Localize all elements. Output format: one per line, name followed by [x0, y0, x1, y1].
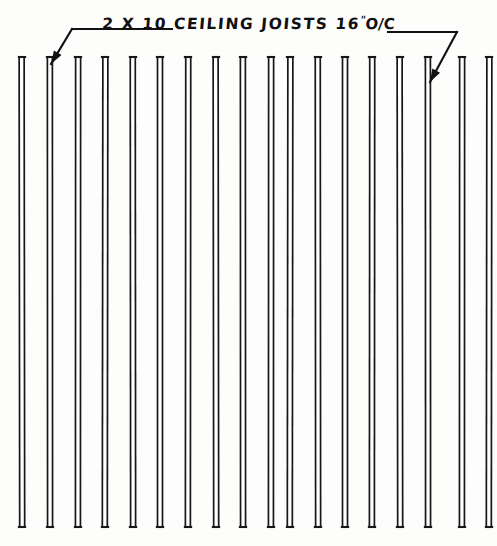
joist-edge-right: [107, 57, 108, 527]
ceiling-joist: [459, 57, 465, 527]
ceiling-joist: [315, 57, 321, 527]
joist-edge-left: [19, 57, 20, 527]
ceiling-joist: [185, 57, 191, 527]
framing-plan-drawing: 2 X 10 CEILING JOISTS 16"O/C: [0, 0, 497, 546]
joist-edge-right: [24, 57, 25, 527]
leader-arrowhead: [51, 51, 61, 64]
joist-edge-left: [213, 57, 214, 527]
joist-edge-left: [102, 57, 103, 527]
ceiling-joist: [75, 57, 81, 527]
left-leader: [51, 29, 172, 64]
ceiling-joist: [240, 57, 246, 527]
ceiling-joist-group: [19, 57, 492, 527]
ceiling-joist: [130, 57, 136, 527]
joist-edge-right: [402, 57, 403, 527]
joist-edge-left: [486, 57, 487, 527]
ceiling-joist: [342, 57, 348, 527]
ceiling-joist: [157, 57, 163, 527]
ceiling-joist: [397, 57, 403, 527]
joist-edge-right: [218, 57, 219, 527]
joist-edge-left: [397, 57, 398, 527]
leader-line-group: [51, 29, 457, 82]
ceiling-joist: [19, 57, 25, 527]
ceiling-joist: [287, 57, 293, 527]
ceiling-joist: [425, 57, 431, 527]
ceiling-joist: [486, 57, 492, 527]
ceiling-joist: [213, 57, 219, 527]
ceiling-joist: [47, 57, 53, 527]
leader-arrowhead: [430, 68, 440, 82]
joist-edge-right: [292, 57, 293, 527]
joist-edge-left: [287, 57, 288, 527]
ceiling-joist: [268, 57, 274, 527]
ceiling-joist: [369, 57, 375, 527]
joist-edge-right: [491, 57, 492, 527]
ceiling-joist: [102, 57, 108, 527]
drawing-canvas: [0, 0, 497, 546]
